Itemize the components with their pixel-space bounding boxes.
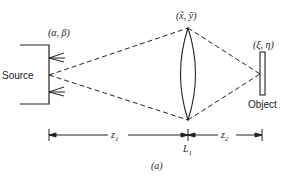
dimension-lines (49, 129, 262, 141)
object-coords: (ξ, η) (253, 39, 275, 51)
lens-label: L1 (182, 143, 192, 157)
figure-caption: (a) (151, 160, 163, 172)
source-label: Source (2, 70, 34, 81)
optics-diagram: Source (α, β) (x̃, ỹ) (ξ, η) Object z1 z… (0, 0, 289, 177)
object-label: Object (248, 99, 277, 110)
dashed-rays (49, 28, 260, 120)
lens-coords: (x̃, ỹ) (176, 10, 197, 22)
z1-label: z1 (110, 129, 118, 143)
object-plate (260, 52, 265, 95)
source-coords: (α, β) (48, 27, 71, 39)
z2-label: z2 (220, 129, 229, 143)
lens-shape (181, 28, 196, 120)
